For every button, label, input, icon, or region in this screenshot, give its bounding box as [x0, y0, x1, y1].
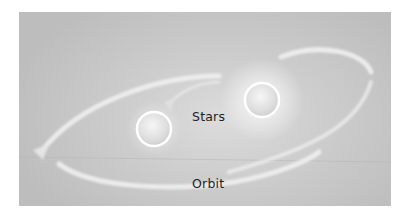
- stars-label: Stars: [192, 109, 225, 124]
- orbit-label: Orbit: [192, 176, 224, 191]
- star-right: [245, 83, 279, 117]
- diagram-panel: Stars Orbit: [19, 12, 391, 206]
- horizon-line: [19, 157, 391, 162]
- star-left: [137, 112, 171, 146]
